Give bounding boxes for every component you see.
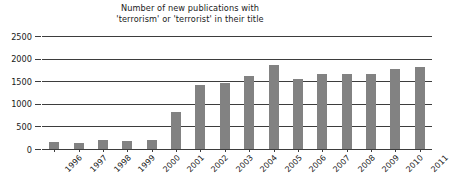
x-axis-label-1996: 1996 <box>64 154 84 174</box>
y-axis-tick-label: 2500 <box>0 33 32 41</box>
x-axis-tick-mark <box>225 149 226 152</box>
bar-2002 <box>195 85 205 149</box>
bar-1996 <box>49 142 59 149</box>
chart-title: Number of new publications with 'terrori… <box>60 3 320 24</box>
x-axis-tick-mark <box>127 149 128 152</box>
y-axis-tick-label: 1500 <box>0 78 32 86</box>
x-axis-label-1998: 1998 <box>113 154 133 174</box>
x-axis-label-1999: 1999 <box>137 154 157 174</box>
x-axis-label-2006: 2006 <box>308 154 328 174</box>
x-axis-tick-mark <box>274 149 275 152</box>
chart-title-line-1: Number of new publications with <box>60 3 320 14</box>
y-axis-tick-mark <box>35 149 41 150</box>
y-axis-tick-mark <box>35 104 41 105</box>
y-axis-tick-label: 2000 <box>0 55 32 63</box>
bar-2006 <box>293 79 303 149</box>
x-axis-label-2010: 2010 <box>405 154 425 174</box>
chart-title-line-2: 'terrorism' or 'terrorist' in their titl… <box>60 14 320 25</box>
bar-1999 <box>122 141 132 149</box>
bar-2009 <box>366 74 376 149</box>
x-axis-tick-mark <box>347 149 348 152</box>
y-axis-tick-label: 0 <box>0 146 32 154</box>
x-axis-tick-mark <box>176 149 177 152</box>
x-axis-label-2007: 2007 <box>332 154 352 174</box>
y-axis-tick-mark <box>35 59 41 60</box>
x-axis-label-2005: 2005 <box>284 154 304 174</box>
x-axis-label-2011: 2011 <box>430 154 450 174</box>
bar-2004 <box>244 76 254 149</box>
x-axis-tick-mark <box>371 149 372 152</box>
x-axis-label-2001: 2001 <box>186 154 206 174</box>
bar-series <box>42 36 432 149</box>
bar-2003 <box>220 83 230 149</box>
gridline-zero <box>42 149 432 150</box>
bar-2010 <box>390 69 400 149</box>
bar-2005 <box>269 65 279 149</box>
bar-2008 <box>342 74 352 149</box>
x-axis-tick-mark <box>200 149 201 152</box>
x-axis-tick-mark <box>322 149 323 152</box>
x-axis-label-2008: 2008 <box>357 154 377 174</box>
x-axis-tick-mark <box>79 149 80 152</box>
x-axis-tick-mark <box>54 149 55 152</box>
y-axis-tick-label: 1000 <box>0 100 32 108</box>
x-axis-label-2009: 2009 <box>381 154 401 174</box>
bar-2000 <box>147 140 157 149</box>
plot-area <box>42 36 432 149</box>
x-axis-tick-mark <box>103 149 104 152</box>
y-axis-tick-label: 500 <box>0 123 32 131</box>
y-axis-tick-mark <box>35 36 41 37</box>
x-axis-tick-mark <box>152 149 153 152</box>
bar-2011 <box>415 67 425 149</box>
x-axis-label-2003: 2003 <box>235 154 255 174</box>
x-axis-label-2000: 2000 <box>162 154 182 174</box>
y-axis-tick-mark <box>35 81 41 82</box>
x-axis-tick-mark <box>249 149 250 152</box>
y-axis-tick-mark <box>35 126 41 127</box>
x-axis-label-1997: 1997 <box>89 154 109 174</box>
bar-2007 <box>317 74 327 149</box>
x-axis-tick-mark <box>420 149 421 152</box>
x-axis-label-2002: 2002 <box>210 154 230 174</box>
x-axis-label-2004: 2004 <box>259 154 279 174</box>
x-axis-tick-mark <box>298 149 299 152</box>
bar-2001 <box>171 112 181 149</box>
bar-1998 <box>98 140 108 149</box>
x-axis-tick-mark <box>395 149 396 152</box>
